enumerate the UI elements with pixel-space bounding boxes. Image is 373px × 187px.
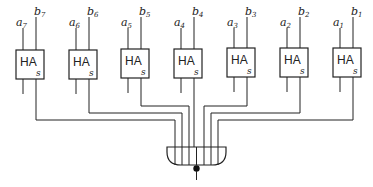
half-adder-blocks: HAsa7b7HAsa6b6HAsa5b5HAsa4b4HAsa3b3HAsa2… <box>16 5 363 94</box>
sum-output-label: s <box>36 68 41 78</box>
sum-wire-ha3 <box>204 77 247 147</box>
input-a-label: a3 <box>227 16 239 30</box>
half-adder-label: HA <box>231 53 248 67</box>
input-a-label: a7 <box>16 16 28 30</box>
sum-wire-ha1 <box>218 77 353 147</box>
half-adder-label: HA <box>178 54 195 68</box>
sum-output-label: s <box>141 67 146 77</box>
half-adder-label: HA <box>337 53 354 67</box>
sum-output-label: s <box>194 67 199 77</box>
input-a-label: a4 <box>174 16 185 30</box>
input-b-label: b4 <box>192 5 204 19</box>
half-adder-label: HA <box>284 53 301 67</box>
output-gate <box>167 147 226 180</box>
half-adder-ha5: HAsa5b5 <box>121 5 151 93</box>
inversion-bubble <box>193 165 199 171</box>
half-adder-label: HA <box>20 55 37 69</box>
half-adder-ha6: HAsa6b6 <box>69 5 99 94</box>
input-b-label: b2 <box>298 5 310 19</box>
sum-output-label: s <box>300 66 305 76</box>
input-b-label: b7 <box>34 5 46 19</box>
sum-output-label: s <box>89 68 94 78</box>
input-b-label: b1 <box>351 5 363 19</box>
input-a-label: a5 <box>121 16 133 30</box>
half-adder-ha7: HAsa7b7 <box>16 5 46 94</box>
half-adder-ha2: HAsa2b2 <box>280 5 310 92</box>
sum-wire-ha6 <box>89 79 182 147</box>
input-a-label: a6 <box>69 16 81 30</box>
half-adder-ha4: HAsa4b4 <box>174 5 204 93</box>
half-adder-ha1: HAsa1b1 <box>333 5 363 92</box>
input-b-label: b3 <box>245 5 257 19</box>
input-a-label: a1 <box>333 16 344 30</box>
input-a-label: a2 <box>280 16 292 30</box>
sum-output-label: s <box>353 66 358 76</box>
sum-wires <box>36 77 353 147</box>
sum-output-label: s <box>247 66 252 76</box>
half-adder-label: HA <box>73 55 90 69</box>
half-adder-label: HA <box>125 54 142 68</box>
half-adder-ha3: HAsa3b3 <box>227 5 257 92</box>
input-b-label: b5 <box>139 5 151 19</box>
circuit-canvas: HAsa7b7HAsa6b6HAsa5b5HAsa4b4HAsa3b3HAsa2… <box>0 0 373 187</box>
half-adder-circuit-diagram: HAsa7b7HAsa6b6HAsa5b5HAsa4b4HAsa3b3HAsa2… <box>0 0 373 187</box>
input-b-label: b6 <box>87 5 99 19</box>
